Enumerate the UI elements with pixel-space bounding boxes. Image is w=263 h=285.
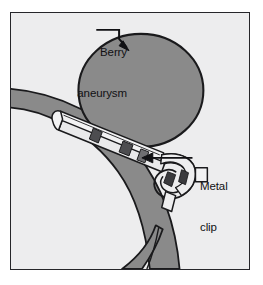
berry-aneurysm-label-line2: aneurysm	[41, 87, 127, 101]
metal-clip-label-line1: Metal	[200, 180, 250, 194]
illustration-frame: Berry aneurysm Metal clip	[10, 12, 250, 270]
berry-aneurysm-label-line1: Berry	[41, 46, 127, 60]
figure-root: Berry aneurysm Metal clip	[0, 0, 263, 285]
metal-clip-label-line2: clip	[200, 221, 250, 235]
metal-clip-label: Metal clip	[200, 153, 250, 261]
berry-aneurysm-label: Berry aneurysm	[41, 19, 127, 127]
